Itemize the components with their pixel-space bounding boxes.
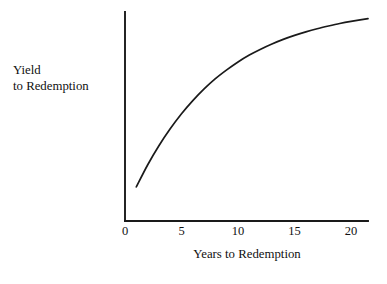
y-axis-title: Yield to Redemption [13,62,117,94]
x-tick-label-group: 05101520 [122,224,357,238]
x-tick-label: 20 [345,224,358,238]
axes-group [125,12,368,221]
yield-curve-line [136,19,368,187]
x-tick-label: 10 [232,224,245,238]
y-axis-title-line-2: to Redemption [13,78,117,94]
x-tick-label: 15 [288,224,301,238]
x-axis-title: Years to Redemption [125,247,369,262]
series-group [136,19,368,187]
chart-figure: 05101520 Yield to Redemption Years to Re… [0,0,387,284]
x-tick-label: 0 [122,224,128,238]
chart-canvas: 05101520 [0,0,387,284]
x-tick-label: 5 [178,224,184,238]
y-axis-title-line-1: Yield [13,62,117,78]
